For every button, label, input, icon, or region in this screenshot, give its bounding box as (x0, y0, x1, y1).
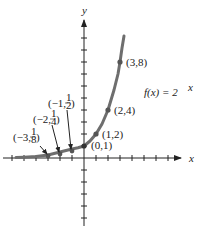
svg-text:f(x) = 2: f(x) = 2 (144, 86, 178, 99)
point-1-2 (93, 131, 98, 136)
svg-text:): ) (71, 97, 75, 110)
point-0-1 (81, 143, 86, 148)
point-2-4 (105, 107, 110, 112)
point-3-8 (117, 59, 122, 64)
exponential-chart: y x (3,8) (2,4) (1,2) (0,1) f(x) = 2 x (… (0, 0, 208, 242)
label-2-4: (2,4) (114, 104, 135, 117)
point-m1 (70, 149, 75, 154)
label-m2-quarter: (−2, 1 4 ) (33, 107, 60, 127)
svg-text:(−3,: (−3, (13, 131, 31, 144)
axes (3, 20, 181, 226)
point-m2 (58, 152, 63, 157)
label-3-8: (3,8) (126, 56, 147, 69)
svg-text:): ) (56, 113, 60, 126)
label-0-1: (0,1) (91, 139, 112, 152)
function-label: f(x) = 2 x (144, 81, 193, 99)
y-axis-label: y (81, 4, 87, 16)
svg-text:): ) (36, 131, 40, 144)
label-m3-eighth: (−3, 1 8 ) (13, 125, 40, 145)
x-axis-label: x (188, 152, 194, 164)
svg-text:x: x (187, 81, 193, 93)
point-m3 (46, 154, 51, 159)
